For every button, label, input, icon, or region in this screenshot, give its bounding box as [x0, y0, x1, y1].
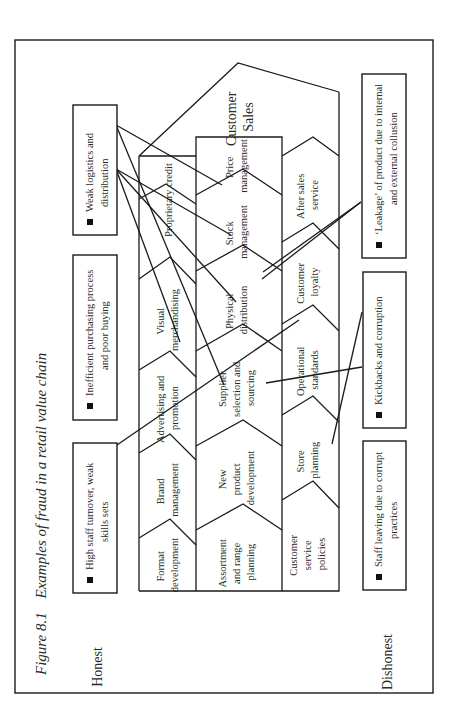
issue-kickbacks: Kickbacks and corruption	[363, 272, 406, 428]
dishonest-label: Dishonest	[380, 634, 395, 690]
bullet-icon	[87, 403, 93, 409]
figure-stage: Figure 8.1 Examples of fraud in a retail…	[0, 0, 458, 722]
cell-customer-service-policies: Customer service policies	[288, 532, 327, 575]
bullet-icon	[87, 219, 93, 225]
cell-proprietary-credit: Proprietary credit	[163, 163, 174, 237]
figure-number: Figure 8.1	[33, 612, 49, 676]
issue-staff-leaving: Staff leaving due to corruptpractices	[363, 441, 406, 590]
bullet-icon	[376, 412, 382, 418]
bullet-icon	[87, 577, 93, 583]
cell-assortment-range-planning: Assortment and range planning	[217, 536, 256, 587]
issue-high-staff-turnover: High staff turnover, weakskills sets	[73, 443, 117, 593]
honest-issue-boxes: High staff turnover, weakskills sets Ine…	[73, 105, 117, 593]
bullet-icon	[376, 242, 382, 248]
figure-caption: Examples of fraud in a retail value chai…	[33, 353, 49, 600]
value-chain-diagram: Figure 8.1 Examples of fraud in a retail…	[0, 0, 458, 722]
figure-title: Figure 8.1 Examples of fraud in a retail…	[33, 353, 49, 676]
issue-inefficient-purchasing: Inefficient purchasing processand poor b…	[73, 255, 117, 420]
svg-text:Kickbacks and corruption: Kickbacks and corruption	[373, 296, 384, 405]
issue-weak-logistics: Weak logistics anddistribution	[73, 105, 117, 235]
dishonest-issue-boxes: Staff leaving due to corruptpractices Ki…	[362, 74, 406, 590]
issue-leakage: ‘Leakage’ of product due to internaland …	[362, 74, 406, 258]
honest-label: Honest	[90, 647, 105, 687]
bullet-icon	[376, 574, 382, 580]
